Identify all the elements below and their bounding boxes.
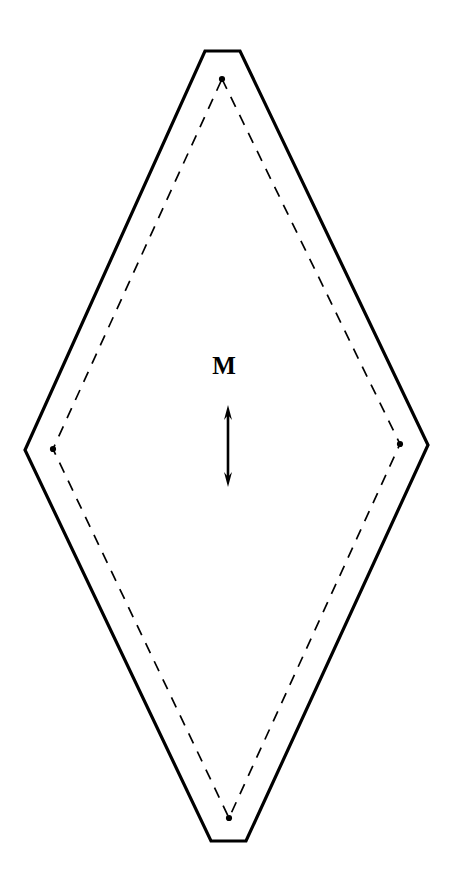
solid-outer-boundary xyxy=(25,51,428,841)
vertex-dot-top xyxy=(219,76,225,82)
vertex-dot-right xyxy=(397,441,403,447)
diagram-canvas: M xyxy=(0,0,457,885)
figure-root: M xyxy=(0,0,457,885)
magnetization-label: M xyxy=(212,352,236,379)
vertex-dot-left xyxy=(50,446,56,452)
vertex-dot-bottom xyxy=(226,815,232,821)
